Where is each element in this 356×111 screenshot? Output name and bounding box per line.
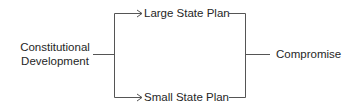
node-constitutional-development: Constitutional Development: [18, 40, 92, 68]
node-start-line1: Constitutional: [18, 40, 92, 54]
node-start-line2: Development: [18, 54, 92, 68]
node-small-state-plan: Small State Plan: [144, 90, 229, 104]
node-large-state-plan: Large State Plan: [144, 6, 230, 20]
node-compromise: Compromise: [276, 47, 341, 61]
